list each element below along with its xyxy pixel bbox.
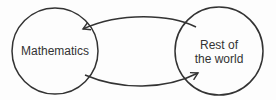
rest-of-world-label-line2: the world xyxy=(184,52,254,66)
arrow-world-to-math xyxy=(83,17,196,29)
diagram: Mathematics Rest of the world xyxy=(0,0,276,100)
mathematics-label: Mathematics xyxy=(17,44,93,58)
arrow-math-to-world xyxy=(85,73,198,86)
rest-of-world-label: Rest of the world xyxy=(184,38,254,66)
rest-of-world-label-line1: Rest of xyxy=(184,38,254,52)
